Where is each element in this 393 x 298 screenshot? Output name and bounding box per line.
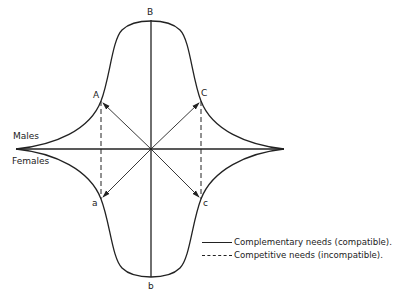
label-females: Females <box>12 156 49 166</box>
solid-line-icon <box>202 242 232 243</box>
arrow-to-a <box>103 149 151 197</box>
label-A: A <box>93 90 99 100</box>
legend-item-complementary: Complementary needs (compatible). <box>202 236 392 249</box>
label-C: C <box>201 88 207 98</box>
label-c: c <box>203 198 208 208</box>
arrow-to-c <box>151 149 199 197</box>
arrow-to-A <box>103 103 151 149</box>
arrow-to-C <box>151 103 199 149</box>
legend-item-competitive: Competitive needs (incompatible). <box>202 249 392 262</box>
dashed-line-icon <box>202 255 232 256</box>
legend-label: Competitive needs (incompatible). <box>234 249 383 262</box>
males-curve <box>16 21 284 149</box>
label-b: b <box>148 281 154 291</box>
legend: Complementary needs (compatible). Compet… <box>202 236 392 262</box>
legend-label: Complementary needs (compatible). <box>234 236 392 249</box>
label-a: a <box>92 198 98 208</box>
label-B: B <box>147 7 153 17</box>
label-males: Males <box>13 131 39 141</box>
